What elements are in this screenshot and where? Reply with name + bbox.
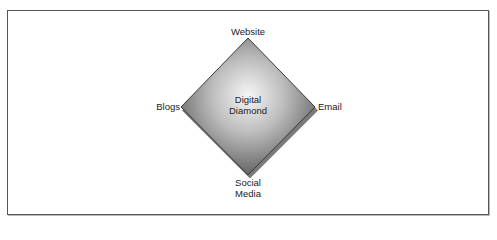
vertex-label-blogs: Blogs bbox=[150, 101, 180, 112]
vertex-label-social-media: Social Media bbox=[225, 177, 271, 199]
center-line-2: Diamond bbox=[220, 105, 276, 116]
center-line-1: Digital bbox=[220, 94, 276, 105]
center-label-digital-diamond: Digital Diamond bbox=[220, 94, 276, 116]
vertex-label-website: Website bbox=[228, 26, 268, 37]
social-line: Social bbox=[225, 177, 271, 188]
media-line: Media bbox=[225, 188, 271, 199]
vertex-label-email: Email bbox=[318, 101, 348, 112]
